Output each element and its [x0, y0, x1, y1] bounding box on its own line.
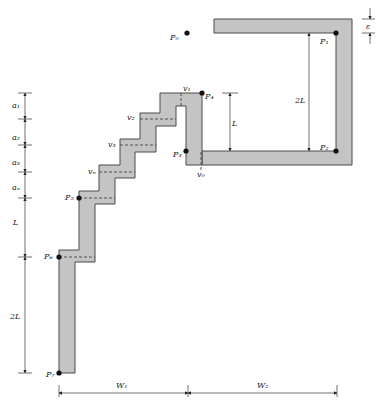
u-bracket-shape	[202, 19, 352, 165]
bottom-dimension-chain	[59, 385, 337, 397]
point-p0	[184, 30, 189, 35]
label-W1: W₁	[116, 381, 127, 390]
label-v3: v₃	[108, 140, 116, 149]
label-p7: P₇	[45, 370, 55, 379]
point-p1	[333, 30, 338, 35]
label-p4: P₄	[204, 92, 214, 101]
label-an: aₙ	[12, 183, 20, 192]
label-v0: v₀	[197, 170, 206, 179]
label-a1: a₁	[12, 101, 20, 110]
label-left-2L: 2L	[9, 312, 20, 321]
label-mid-L: L	[231, 119, 237, 128]
point-p3	[183, 148, 188, 153]
label-p1: P₁	[319, 37, 329, 46]
staircase-shape	[59, 93, 202, 373]
label-p2: P₂	[319, 143, 329, 152]
label-left-L: L	[12, 218, 18, 227]
label-p5: P₅	[64, 193, 74, 202]
label-v1: v₁	[183, 84, 191, 93]
label-p6: P₆	[43, 252, 53, 261]
label-p0: P₀	[169, 33, 179, 42]
point-p2	[333, 148, 338, 153]
label-a3: a₃	[12, 158, 20, 167]
label-a2: a₂	[12, 133, 20, 142]
label-epsilon: ε	[366, 22, 370, 31]
point-p7	[56, 370, 61, 375]
label-vn: vₙ	[88, 167, 96, 176]
mechanism-diagram: P₀ P₁ P₂ P₃ P₄ P₅ P₆ P₇ v₀ v₁ v₂ v₃ vₙ a…	[0, 0, 383, 408]
point-p6	[56, 254, 61, 259]
label-v2: v₂	[127, 113, 135, 122]
label-p3: P₃	[172, 150, 182, 159]
point-p5	[76, 195, 81, 200]
label-W2: W₂	[257, 381, 268, 390]
left-dimension-chain	[18, 93, 32, 373]
point-p4	[199, 90, 204, 95]
label-right-2L: 2L	[294, 96, 305, 105]
